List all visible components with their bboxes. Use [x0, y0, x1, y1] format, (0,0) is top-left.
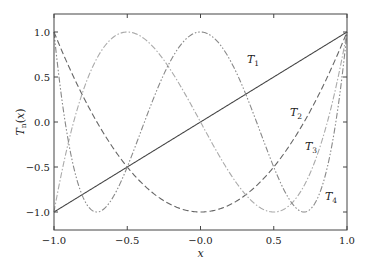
x-tick-label: −0.5 [115, 235, 139, 246]
y-tick-label: 0.0 [34, 117, 50, 128]
curve-label-t3: T3 [305, 140, 317, 155]
chebyshev-chart: −1.0−0.5−0.00.51.0−1.0−0.50.00.51.0 T1T2… [0, 0, 370, 269]
y-axis-label: Tn(x) [14, 109, 28, 136]
x-tick-label: 1.0 [339, 235, 355, 246]
x-axis-label: x [197, 247, 204, 260]
x-tick-label: −0.0 [188, 235, 212, 246]
curve-label-t2: T2 [290, 106, 302, 121]
axis-ticks: −1.0−0.5−0.00.51.0−1.0−0.50.00.51.0 [26, 14, 355, 246]
curve-label-t4: T4 [325, 190, 337, 205]
y-axis-label-close: ) [14, 109, 27, 113]
curve-label-t1: T1 [247, 53, 259, 68]
x-tick-label: −1.0 [42, 235, 66, 246]
y-tick-label: 1.0 [34, 27, 50, 38]
y-tick-label: −0.5 [26, 162, 50, 173]
y-tick-label: 0.5 [34, 72, 50, 83]
y-tick-label: −1.0 [26, 207, 50, 218]
curve-t1 [54, 32, 347, 212]
plot-curves [54, 32, 347, 212]
x-tick-label: 0.5 [266, 235, 282, 246]
